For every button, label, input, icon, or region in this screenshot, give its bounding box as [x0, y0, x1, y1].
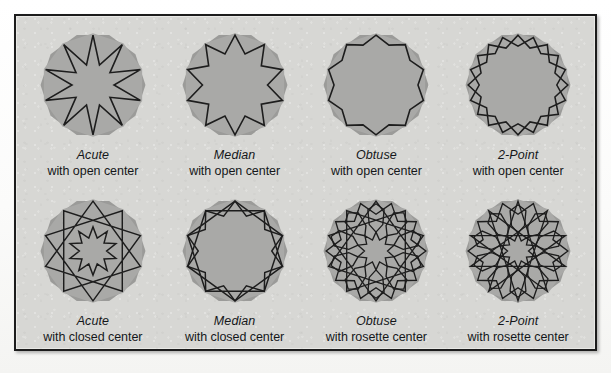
figure-caption: Obtuse with rosette center — [326, 313, 427, 345]
figure-caption: 2-Point with rosette center — [468, 313, 569, 345]
figure-caption: Median with closed center — [185, 313, 284, 345]
pattern-median-closed-center — [174, 190, 296, 312]
pattern-two-point-rosette-center — [457, 190, 579, 312]
figure-description: with open center — [47, 163, 138, 179]
pattern-acute-closed-center — [32, 190, 154, 312]
figure-name: 2-Point — [468, 313, 569, 329]
page-canvas: Acute with open center Median with open … — [0, 0, 611, 373]
figure-cell: Acute with open center — [22, 20, 164, 184]
figure-cell: Obtuse with open center — [306, 20, 448, 184]
figure-name: Acute — [43, 313, 142, 329]
figure-caption: Acute with open center — [47, 147, 138, 179]
figure-name: Median — [185, 313, 284, 329]
figure-name: 2-Point — [473, 147, 564, 163]
figure-caption: Median with open center — [189, 147, 280, 179]
figure-caption: Obtuse with open center — [331, 147, 422, 179]
figure-cell: Median with closed center — [164, 184, 306, 348]
figure-panel: Acute with open center Median with open … — [14, 14, 597, 351]
figure-name: Median — [189, 147, 280, 163]
figure-description: with closed center — [43, 329, 142, 345]
pattern-two-point-open-center — [457, 24, 579, 146]
figure-cell: Acute with closed center — [22, 184, 164, 348]
pattern-obtuse-open-center — [315, 24, 437, 146]
figure-cell: Obtuse with rosette center — [306, 184, 448, 348]
figure-description: with open center — [189, 163, 280, 179]
figure-name: Acute — [47, 147, 138, 163]
figure-name: Obtuse — [331, 147, 422, 163]
figure-grid: Acute with open center Median with open … — [16, 16, 595, 349]
pattern-median-open-center — [174, 24, 296, 146]
figure-name: Obtuse — [326, 313, 427, 329]
pattern-obtuse-rosette-center — [315, 190, 437, 312]
figure-description: with rosette center — [468, 329, 569, 345]
figure-cell: Median with open center — [164, 20, 306, 184]
figure-caption: 2-Point with open center — [473, 147, 564, 179]
figure-cell: 2-Point with open center — [447, 20, 589, 184]
figure-caption: Acute with closed center — [43, 313, 142, 345]
figure-cell: 2-Point with rosette center — [447, 184, 589, 348]
figure-description: with closed center — [185, 329, 284, 345]
figure-description: with open center — [473, 163, 564, 179]
pattern-acute-open-center — [32, 24, 154, 146]
figure-description: with open center — [331, 163, 422, 179]
figure-description: with rosette center — [326, 329, 427, 345]
